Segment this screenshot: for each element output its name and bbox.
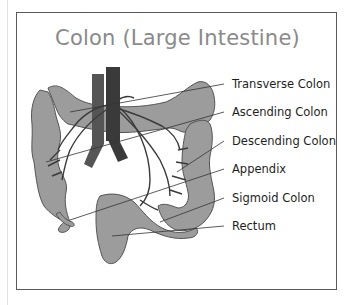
colon-illustration	[0, 0, 357, 305]
label-transverse-colon: Transverse Colon	[232, 77, 330, 91]
vena-cava-vessel	[92, 74, 104, 144]
label-descending-colon: Descending Colon	[232, 134, 336, 148]
label-ascending-colon: Ascending Colon	[232, 105, 328, 119]
label-appendix: Appendix	[232, 162, 286, 176]
label-sigmoid-colon: Sigmoid Colon	[232, 191, 315, 205]
label-rectum: Rectum	[232, 219, 276, 233]
iliac-vessel-left	[84, 140, 104, 168]
